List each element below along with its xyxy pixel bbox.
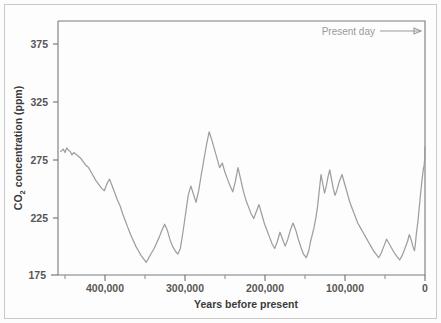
co2-data-line — [61, 132, 425, 263]
x-tick-label-0: 0 — [422, 282, 428, 294]
y-tick-label-175: 175 — [28, 269, 46, 281]
y-tick-label-375: 375 — [30, 38, 48, 50]
y-tick-label-275: 275 — [30, 154, 48, 166]
y-tick-label-325: 325 — [30, 96, 48, 108]
y-axis-title-suffix: concentration (ppm) — [12, 86, 24, 190]
x-axis-ticks — [105, 275, 425, 281]
x-tick-label-400000: 400,000 — [86, 282, 124, 294]
svg-text:CO2 concentration (ppm): CO2 concentration (ppm) — [12, 86, 27, 210]
x-axis-minor-ticks — [65, 275, 385, 279]
y-axis-title-prefix: CO — [12, 194, 24, 210]
y-axis-title: CO2 concentration (ppm) — [12, 86, 27, 210]
x-tick-label-100000: 100,000 — [326, 282, 364, 294]
x-tick-label-200000: 200,000 — [246, 282, 284, 294]
present-day-annotation: Present day — [322, 26, 421, 37]
plot-frame — [58, 21, 425, 275]
y-axis-tick-labels: 375 325 275 225 175 — [28, 38, 48, 281]
chart-canvas: 375 325 275 225 175 400,000 300,000 200, — [0, 0, 441, 323]
y-axis-ticks — [51, 44, 58, 275]
x-axis-title: Years before present — [194, 298, 298, 310]
co2-chart-figure: 375 325 275 225 175 400,000 300,000 200, — [0, 0, 441, 323]
present-day-label: Present day — [322, 26, 375, 37]
x-tick-label-300000: 300,000 — [166, 282, 204, 294]
y-tick-label-225: 225 — [30, 212, 48, 224]
x-axis-tick-labels: 400,000 300,000 200,000 100,000 0 — [86, 282, 428, 294]
